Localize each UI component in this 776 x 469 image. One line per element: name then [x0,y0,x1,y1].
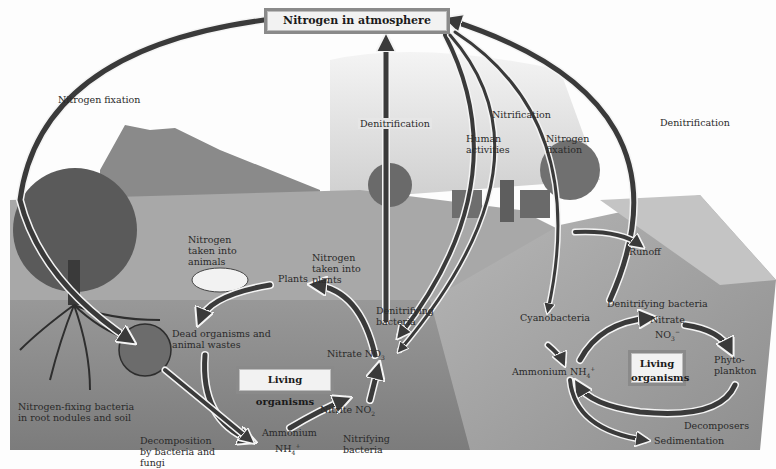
water-living-line2: organisms [631,371,683,385]
label-nitrogen-into-plants: Nitrogen taken into plants [312,252,378,285]
water-living-line1: Living [631,357,683,371]
label-land-ammonium: Ammonium [262,427,317,438]
barn-2 [520,190,550,218]
scene-illustration [0,0,776,469]
land-nh-sup: + [295,442,300,449]
label-land-denitrifying-bacteria: Denitrifying bacteria [376,305,426,327]
nitrogen-cycle-diagram: Nitrogen in atmosphere Living organisms … [0,0,776,469]
label-decomposition: Decomposition by bacteria and fungi [140,435,220,468]
label-nitrogen-fixing-bacteria: Nitrogen-fixing bacteria in root nodules… [18,401,138,423]
label-nitrification: Nitrification [492,109,551,120]
label-phytoplankton: Phyto- plankton [714,354,758,376]
water-nh4-sup: + [590,365,595,372]
water-no3-sup: − [675,328,680,335]
label-denitrification-right: Denitrification [660,117,730,128]
label-land-ammonium-formula: NH4+ [275,440,300,458]
land-nh-sub: 4 [292,449,296,456]
label-nitrogen-fixation-left: Nitrogen fixation [58,94,140,105]
label-water-denitrifying-bacteria: Denitrifying bacteria [607,298,708,309]
label-cyanobacteria: Cyanobacteria [520,312,590,323]
label-runoff: Runoff [629,246,661,257]
label-plants: Plants [278,273,308,284]
land-nh-text: NH [275,443,292,454]
label-water-nitrate-formula: NO3− [655,326,680,344]
label-dead-organisms: Dead organisms and animal wastes [172,328,272,350]
water-living-organisms-box: Living organisms [628,350,686,386]
label-nitrogen-fixation-right: Nitrogen fixation [546,133,592,155]
water-no3-sub: 3 [671,335,675,342]
land-living-organisms-box: Living organisms [236,366,334,394]
label-water-nitrate: Nitrate [650,314,685,325]
label-water-ammonium: Ammonium NH4+ [512,363,595,381]
water-nh4-text: Ammonium NH [512,366,587,377]
land-nitrate-text: Nitrate NO [327,348,381,359]
label-human-activities: Human activities [466,133,508,155]
atmosphere-box: Nitrogen in atmosphere [264,8,450,34]
label-decomposers: Decomposers [684,420,749,431]
land-nitrate-sub: 3 [381,354,385,361]
label-nitrifying-bacteria: Nitrifying bacteria [343,433,391,455]
silo [500,180,514,222]
label-land-nitrite: Nitrite NO2 [320,404,375,419]
label-sedimentation: Sedimentation [654,435,724,446]
label-denitrification-center: Denitrification [358,118,432,129]
label-land-nitrate: Nitrate NO3 [327,348,385,363]
land-nitrite-sub: 2 [371,410,375,417]
label-nitrogen-into-animals: Nitrogen taken into animals [188,234,258,267]
land-nitrite-text: Nitrite NO [320,404,371,415]
water-no3-text: NO [655,329,671,340]
water-nh4-sub: 4 [587,372,591,379]
